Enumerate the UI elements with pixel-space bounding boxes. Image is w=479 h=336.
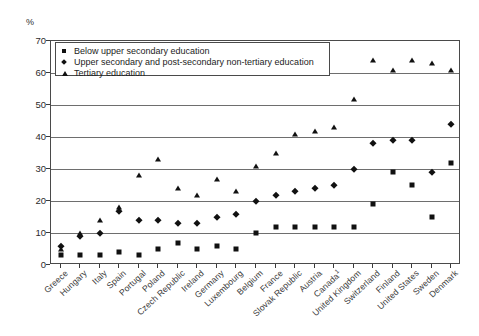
y-axis-tick-label: 0 (24, 259, 46, 270)
data-point-square (195, 247, 200, 252)
data-point-diamond (136, 217, 142, 223)
y-axis-tick-mark (46, 232, 50, 233)
data-point-square (449, 160, 454, 165)
data-point-diamond (233, 211, 239, 217)
x-axis-tick-mark (138, 264, 139, 268)
data-point-square (273, 224, 278, 229)
data-point-triangle (351, 96, 357, 101)
data-point-triangle (155, 157, 161, 162)
gridline (51, 137, 459, 138)
data-point-triangle (429, 61, 435, 66)
x-axis-tick-mark (353, 264, 354, 268)
data-point-triangle (409, 58, 415, 63)
data-point-diamond (175, 220, 181, 226)
triangle-marker-icon (62, 71, 74, 76)
data-point-triangle (116, 205, 122, 210)
data-point-diamond (311, 185, 317, 191)
x-axis-tick-mark (392, 264, 393, 268)
y-axis-tick-mark (46, 40, 50, 41)
legend-label: Upper secondary and post-secondary non-t… (74, 57, 314, 67)
data-point-triangle (175, 186, 181, 191)
diamond-marker-icon (62, 60, 74, 64)
y-axis-tick-label: 30 (24, 163, 46, 174)
x-axis-tick-mark (372, 264, 373, 268)
data-point-diamond (272, 191, 278, 197)
data-point-triangle (136, 173, 142, 178)
data-point-triangle (448, 67, 454, 72)
data-point-triangle (331, 125, 337, 130)
data-point-square (156, 247, 161, 252)
y-axis-tick-label: 50 (24, 99, 46, 110)
x-axis-tick-mark (294, 264, 295, 268)
data-point-square (78, 253, 83, 258)
data-point-square (410, 183, 415, 188)
data-point-square (136, 253, 141, 258)
data-point-diamond (389, 137, 395, 143)
legend-label: Below upper secondary education (74, 46, 210, 56)
x-axis-tick-mark (431, 264, 432, 268)
data-point-diamond (331, 182, 337, 188)
data-point-triangle (194, 192, 200, 197)
square-marker-icon (62, 49, 74, 53)
data-point-diamond (350, 166, 356, 172)
x-axis-tick-mark (79, 264, 80, 268)
data-point-triangle (370, 58, 376, 63)
y-axis-tick-mark (46, 72, 50, 73)
legend-label: Tertiary education (74, 68, 145, 78)
x-axis-tick-mark (60, 264, 61, 268)
data-point-diamond (370, 140, 376, 146)
data-point-triangle (58, 247, 64, 252)
x-axis-tick-mark (196, 264, 197, 268)
x-axis-tick-mark (235, 264, 236, 268)
data-point-triangle (233, 189, 239, 194)
y-axis-tick-mark (46, 168, 50, 169)
y-axis-tick-label: 60 (24, 67, 46, 78)
data-point-diamond (253, 198, 259, 204)
data-point-square (97, 253, 102, 258)
data-point-square (254, 231, 259, 236)
x-axis-tick-mark (333, 264, 334, 268)
data-point-diamond (97, 230, 103, 236)
x-axis-tick-mark (255, 264, 256, 268)
data-point-square (58, 253, 63, 258)
y-axis-tick-mark (46, 136, 50, 137)
x-axis-tick-mark (411, 264, 412, 268)
chart-figure: % 010203040506070 Below upper secondary … (0, 0, 479, 336)
y-axis-tick-label: 10 (24, 227, 46, 238)
data-point-diamond (214, 214, 220, 220)
data-point-diamond (448, 121, 454, 127)
data-point-square (293, 224, 298, 229)
x-axis-tick-mark (216, 264, 217, 268)
x-axis-tick-mark (450, 264, 451, 268)
legend-item-tertiary: Tertiary education (62, 68, 323, 79)
data-point-diamond (292, 188, 298, 194)
data-point-square (175, 240, 180, 245)
gridline (51, 169, 459, 170)
data-point-square (371, 202, 376, 207)
data-point-triangle (273, 151, 279, 156)
data-point-triangle (253, 163, 259, 168)
x-axis-tick-mark (118, 264, 119, 268)
data-point-square (390, 170, 395, 175)
y-axis-tick-mark (46, 200, 50, 201)
y-axis-tick-label: 20 (24, 195, 46, 206)
data-point-diamond (428, 169, 434, 175)
x-axis-tick-mark (99, 264, 100, 268)
data-point-square (234, 247, 239, 252)
data-point-square (351, 224, 356, 229)
gridline (51, 105, 459, 106)
data-point-triangle (214, 176, 220, 181)
data-point-square (429, 215, 434, 220)
data-point-diamond (155, 217, 161, 223)
x-axis-tick-mark (157, 264, 158, 268)
data-point-square (117, 250, 122, 255)
data-point-triangle (77, 231, 83, 236)
x-axis-tick-mark (275, 264, 276, 268)
chart-legend: Below upper secondary education Upper se… (55, 42, 330, 76)
legend-item-below-upper-secondary: Below upper secondary education (62, 46, 323, 57)
data-point-square (312, 224, 317, 229)
y-axis-tick-mark (46, 264, 50, 265)
data-point-square (214, 243, 219, 248)
legend-item-upper-secondary: Upper secondary and post-secondary non-t… (62, 57, 323, 68)
data-point-square (332, 224, 337, 229)
